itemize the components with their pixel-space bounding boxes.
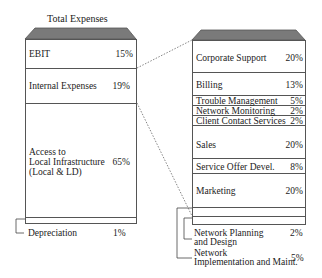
- segment-corporate-support: Corporate Support 20%: [193, 41, 305, 73]
- network-implementation-label-line-2: Implementation and Maint.: [194, 257, 298, 267]
- network-planning-label-line-2: and Design: [194, 237, 237, 247]
- depreciation-label: Depreciation: [28, 228, 77, 238]
- depreciation-percent: 1%: [113, 228, 126, 238]
- left-column-title: Total Expenses: [47, 13, 108, 24]
- segment-label: Sales: [196, 140, 216, 150]
- segment-label: EBIT: [29, 49, 50, 59]
- segment-network-planning-strip: [193, 217, 305, 226]
- segment-label-line-2: Local Infrastructure: [29, 157, 105, 167]
- segment-percent: 20%: [286, 186, 303, 196]
- right-stack: Corporate Support 20% Billing 13% Troubl…: [192, 40, 306, 225]
- segment-service-offer-devel: Service Offer Devel. 8%: [193, 159, 305, 174]
- segment-percent: 19%: [113, 81, 130, 91]
- segment-percent: 2%: [290, 116, 303, 126]
- segment-client-contact-services: Client Contact Services 2%: [193, 116, 305, 126]
- segment-label: Service Offer Devel.: [196, 162, 275, 172]
- segment-network-monitoring: Network Monitoring 2%: [193, 106, 305, 116]
- segment-depreciation-strip: [26, 218, 136, 224]
- segment-percent: 13%: [286, 80, 303, 90]
- segment-label: Marketing: [196, 186, 236, 196]
- segment-percent: 8%: [290, 162, 303, 172]
- segment-percent: 65%: [113, 157, 130, 167]
- segment-label: Network Monitoring: [196, 106, 275, 116]
- expansion-line-bottom: [137, 103, 193, 218]
- segment-percent: 5%: [290, 96, 303, 106]
- segment-internal-expenses: Internal Expenses 19%: [26, 69, 136, 104]
- segment-label: Trouble Management: [196, 96, 278, 106]
- segment-label: Client Contact Services: [196, 116, 286, 126]
- left-cap: [25, 28, 136, 39]
- segment-percent: 2%: [290, 106, 303, 116]
- segment-sales: Sales 20%: [193, 126, 305, 159]
- implementation-bracket: [177, 208, 193, 258]
- segment-percent: 20%: [286, 53, 303, 63]
- segment-ebit: EBIT 15%: [26, 40, 136, 69]
- segment-percent: 20%: [286, 140, 303, 150]
- segment-label: Corporate Support: [196, 53, 266, 63]
- segment-label: Billing: [196, 80, 222, 90]
- right-cap: [192, 30, 305, 40]
- segment-local-infrastructure: Access to Local Infrastructure (Local & …: [26, 104, 136, 218]
- segment-label: Internal Expenses: [29, 81, 97, 91]
- segment-label-line-1: Access to: [29, 147, 66, 157]
- network-planning-percent: 2%: [290, 228, 303, 238]
- segment-billing: Billing 13%: [193, 73, 305, 96]
- segment-percent: 15%: [116, 49, 133, 59]
- segment-label-line-3: (Local & LD): [29, 167, 82, 177]
- expansion-line-top: [137, 40, 192, 68]
- left-stack: EBIT 15% Internal Expenses 19% Access to…: [25, 39, 137, 224]
- segment-trouble-management: Trouble Management 5%: [193, 96, 305, 106]
- network-implementation-percent: 5%: [291, 253, 304, 263]
- segment-marketing: Marketing 20%: [193, 174, 305, 208]
- segment-network-implementation-strip: [193, 208, 305, 217]
